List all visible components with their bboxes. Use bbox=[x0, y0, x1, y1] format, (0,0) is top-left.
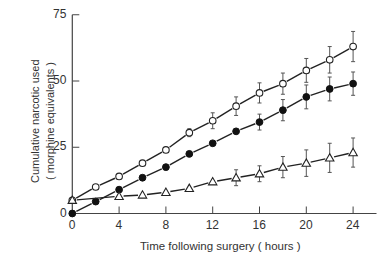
open-circle-marker bbox=[116, 173, 123, 180]
open-triangle-marker bbox=[326, 154, 334, 161]
open-circle-line-segment bbox=[217, 109, 233, 119]
open-triangle-line-segment bbox=[287, 164, 302, 166]
filled-circle-line-segment bbox=[264, 112, 279, 120]
open-circle-line-segment bbox=[264, 85, 279, 91]
filled-circle-marker bbox=[326, 86, 333, 93]
open-circle-marker bbox=[163, 147, 170, 154]
open-circle-marker bbox=[303, 67, 310, 74]
filled-circle-marker bbox=[186, 150, 193, 157]
x-axis-label: Time following surgery ( hours ) bbox=[140, 240, 301, 252]
open-circle-line-segment bbox=[310, 62, 325, 69]
open-circle-marker bbox=[209, 117, 216, 124]
open-circle-marker bbox=[280, 80, 287, 87]
open-circle-line-segment bbox=[100, 178, 115, 185]
filled-circle-marker bbox=[233, 128, 240, 135]
open-triangle-line-segment bbox=[241, 175, 256, 177]
open-circle-line-segment bbox=[287, 73, 303, 82]
filled-circle-marker bbox=[350, 80, 357, 87]
y-axis-label-line1: Cumulative narcotic used bbox=[29, 59, 41, 183]
open-circle-marker bbox=[92, 184, 99, 191]
open-triangle-marker bbox=[279, 163, 287, 170]
open-circle-line-segment bbox=[334, 49, 350, 58]
open-circle-line-segment bbox=[193, 123, 208, 131]
x-tick-label: 20 bbox=[299, 219, 312, 231]
filled-circle-line-segment bbox=[287, 99, 303, 108]
filled-circle-line-segment bbox=[334, 85, 349, 88]
x-tick-label: 12 bbox=[206, 219, 219, 231]
open-circle-marker bbox=[350, 43, 357, 50]
open-triangle-marker bbox=[138, 191, 146, 198]
open-circle-line-segment bbox=[76, 189, 92, 198]
y-tick-label: 75 bbox=[53, 8, 66, 20]
filled-circle-line-segment bbox=[217, 133, 232, 141]
open-circle-line-segment bbox=[240, 95, 256, 104]
open-circle-marker bbox=[139, 160, 146, 167]
open-triangle-marker bbox=[255, 170, 263, 177]
filled-circle-marker bbox=[209, 140, 216, 147]
filled-circle-marker bbox=[303, 94, 310, 101]
filled-circle-marker bbox=[92, 198, 99, 205]
x-tick-label: 4 bbox=[116, 219, 123, 231]
open-triangle-marker bbox=[349, 148, 357, 155]
filled-circle-line-segment bbox=[147, 169, 162, 176]
y-axis-label-line2: ( morphine equivalents ) bbox=[44, 62, 56, 180]
open-triangle-line-segment bbox=[264, 168, 279, 172]
y-tick-label: 0 bbox=[60, 207, 67, 219]
open-triangle-line-segment bbox=[124, 195, 138, 196]
open-triangle-line-segment bbox=[194, 183, 209, 187]
chart bbox=[0, 0, 386, 260]
open-triangle-line-segment bbox=[217, 178, 232, 180]
open-circle-marker bbox=[233, 103, 240, 110]
open-circle-line-segment bbox=[146, 152, 162, 161]
filled-circle-line-segment bbox=[170, 156, 186, 165]
open-circle-line-segment bbox=[123, 165, 139, 174]
filled-circle-line-segment bbox=[76, 204, 91, 212]
open-circle-marker bbox=[186, 129, 193, 136]
open-circle-marker bbox=[256, 90, 263, 97]
x-tick-label: 24 bbox=[346, 219, 359, 231]
open-triangle-marker bbox=[185, 184, 193, 191]
x-tick-label: 0 bbox=[69, 219, 76, 231]
filled-circle-marker bbox=[139, 174, 146, 181]
filled-circle-line-segment bbox=[240, 124, 255, 130]
open-triangle-line-segment bbox=[334, 154, 349, 157]
x-tick-label: 16 bbox=[253, 219, 266, 231]
open-triangle-marker bbox=[162, 188, 170, 195]
open-triangle-marker bbox=[232, 174, 240, 181]
open-circle-line-segment bbox=[170, 135, 186, 147]
filled-circle-marker bbox=[69, 210, 76, 217]
open-triangle-line-segment bbox=[311, 159, 326, 162]
filled-circle-marker bbox=[163, 164, 170, 171]
open-circle-marker bbox=[326, 57, 333, 64]
x-tick-label: 8 bbox=[162, 219, 169, 231]
filled-circle-line-segment bbox=[311, 90, 326, 95]
filled-circle-line-segment bbox=[193, 145, 208, 152]
open-triangle-marker bbox=[302, 159, 310, 166]
open-triangle-line-segment bbox=[170, 189, 185, 191]
open-triangle-line-segment bbox=[147, 193, 161, 195]
filled-circle-line-segment bbox=[123, 180, 138, 188]
open-triangle-marker bbox=[209, 178, 217, 185]
filled-circle-marker bbox=[280, 107, 287, 114]
filled-circle-marker bbox=[256, 119, 263, 126]
open-triangle-marker bbox=[115, 192, 123, 199]
